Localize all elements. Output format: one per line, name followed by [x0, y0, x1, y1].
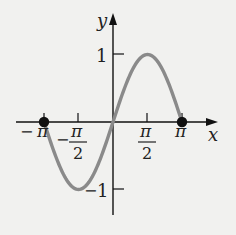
x-label-half-den: 2 — [142, 144, 152, 163]
x-axis-label: x — [208, 124, 218, 145]
sine-graph: y x 1 − 1 − π − π 2 π 2 π — [0, 0, 236, 235]
y-tick-label-neg-sign: − — [84, 181, 97, 200]
y-tick-label-1: 1 — [96, 45, 107, 66]
x-label-neg-half-sign: − — [56, 130, 69, 149]
x-label-neg-pi-sign: − — [20, 122, 33, 141]
y-tick-label-neg1: 1 — [97, 180, 108, 201]
x-label-neg-half-den: 2 — [73, 144, 83, 163]
y-axis-label: y — [96, 10, 108, 31]
x-label-neg-pi: π — [36, 121, 49, 141]
chart-container: y x 1 − 1 − π − π 2 π 2 π — [0, 0, 236, 235]
y-axis-arrow-icon — [109, 13, 117, 25]
x-label-half-num: π — [139, 121, 152, 141]
x-label-neg-half-num: π — [70, 121, 83, 141]
x-label-pi: π — [174, 121, 187, 141]
